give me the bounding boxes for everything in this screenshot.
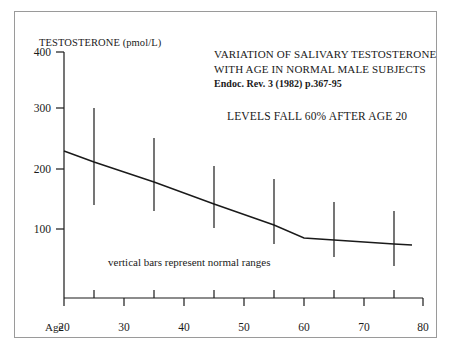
trend-line [64,151,412,245]
chart-screenshot: TESTOSTERONE (pmol/L) 400 300 200 100 VA… [0,0,457,355]
figure-caption: vertical bars represent normal ranges [108,257,270,268]
x-tick-label-30: 30 [109,322,139,334]
y-tick-label-400: 400 [19,47,51,59]
figure-callout: LEVELS FALL 60% AFTER AGE 20 [227,111,407,123]
figure-title-line-1: VARIATION OF SALIVARY TESTOSTERONE [214,49,436,60]
x-tick-label-70: 70 [349,322,379,334]
x-tick-label-60: 60 [289,322,319,334]
figure-citation: Endoc. Rev. 3 (1982) p.367-95 [214,79,342,89]
y-tick-label-100: 100 [19,224,51,236]
y-tick-label-300: 300 [19,103,51,115]
x-tick-label-40: 40 [169,322,199,334]
plot-area [15,12,436,337]
x-tick-label-50: 50 [229,322,259,334]
x-tick-label-20: 20 [49,322,79,334]
y-tick-label-200: 200 [19,164,51,176]
x-tick-label-80: 80 [408,322,438,334]
y-axis-title: TESTOSTERONE (pmol/L) [39,38,161,49]
figure-frame: TESTOSTERONE (pmol/L) 400 300 200 100 VA… [14,11,437,338]
figure-title-line-2: WITH AGE IN NORMAL MALE SUBJECTS [214,64,426,75]
